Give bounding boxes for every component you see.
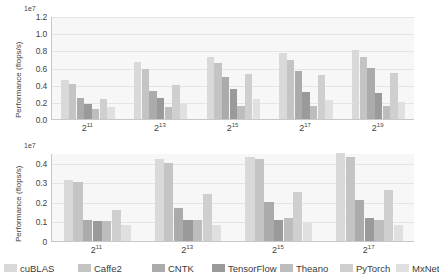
y-axis-tick-label: 1.0: [36, 29, 47, 39]
bar-group: [125, 17, 198, 119]
legend-label: Caffe2: [94, 263, 122, 274]
bar-caffe2: [73, 182, 82, 241]
y-axis-tick-label: 0.2: [36, 98, 47, 108]
bar-pytorch: [100, 99, 107, 119]
x-axis-tick-label: 217: [363, 244, 375, 255]
bar-cntk: [295, 71, 302, 119]
bar-tensorflow: [157, 98, 164, 119]
legend-item-cublas[interactable]: cuBLAS: [4, 263, 54, 274]
legend-label: PyTorch: [356, 263, 390, 274]
bar-mxnet: [212, 225, 221, 241]
bar-tensorflow: [365, 218, 374, 241]
bar-caffe2: [164, 163, 173, 241]
legend-swatch-icon: [340, 264, 353, 272]
bar-caffe2: [360, 57, 367, 119]
bar-cublas: [279, 53, 286, 119]
bar-mxnet: [303, 223, 312, 241]
bar-caffe2: [142, 69, 149, 119]
y-axis-label-bottom: Performance (flops/s): [14, 166, 23, 242]
bar-cublas: [134, 62, 141, 120]
legend-item-tensorflow[interactable]: TensorFlow: [212, 263, 277, 274]
bar-tensorflow: [302, 92, 309, 119]
bar-caffe2: [346, 157, 355, 241]
plot-area-top: [51, 17, 414, 120]
bar-tensorflow: [375, 93, 382, 119]
bar-cntk: [355, 200, 364, 241]
legend-label: cuBLAS: [20, 263, 54, 274]
bar-cntk: [149, 91, 156, 119]
y-axis-tick-label: 0.1: [36, 217, 47, 227]
bar-caffe2: [287, 60, 294, 119]
y-axis-tick-label: 0.6: [36, 64, 47, 74]
bar-pytorch: [112, 210, 121, 241]
y-axis-tick-label: 0.3: [36, 178, 47, 188]
bar-theano: [310, 106, 317, 119]
chart-panel-bottom: 1e7 Performance (flops/s) 00.10.20.30.42…: [0, 140, 425, 260]
x-axis-tick-label: 213: [154, 122, 166, 133]
y-axis-tick-label: 0.8: [36, 46, 47, 56]
bar-cntk: [77, 98, 84, 119]
bar-group: [52, 154, 143, 241]
bar-group: [342, 17, 415, 119]
x-axis-tick-label: 219: [372, 122, 384, 133]
bar-theano: [383, 106, 390, 119]
legend-label: MxNet: [412, 263, 439, 274]
legend-item-mxnet[interactable]: MxNet: [396, 263, 439, 274]
bar-tensorflow: [93, 221, 102, 241]
legend-swatch-icon: [4, 264, 17, 272]
legend-swatch-icon: [152, 264, 165, 272]
bar-mxnet: [253, 99, 260, 119]
bar-group: [143, 154, 234, 241]
chart-legend: cuBLASCaffe2CNTKTensorFlowTheanoPyTorchM…: [0, 258, 425, 278]
bar-pytorch: [203, 194, 212, 241]
x-axis-tick-label: 213: [181, 244, 193, 255]
legend-item-caffe2[interactable]: Caffe2: [78, 263, 122, 274]
x-axis-tick-label: 211: [82, 122, 93, 133]
bar-caffe2: [255, 159, 264, 241]
plot-area-bottom: [51, 154, 414, 242]
chart-panel-top: 1e7 Performance (flops/s) 0.00.20.40.60.…: [0, 0, 425, 140]
x-axis-tick-label: 217: [299, 122, 311, 133]
legend-item-pytorch[interactable]: PyTorch: [340, 263, 390, 274]
bar-tensorflow: [274, 220, 283, 242]
bar-cntk: [174, 208, 183, 241]
y-axis-offset-bottom: 1e7: [24, 142, 36, 149]
bar-theano: [374, 220, 383, 242]
bar-theano: [102, 221, 111, 241]
bar-theano: [237, 106, 244, 119]
bar-pytorch: [390, 73, 397, 119]
bar-group: [234, 154, 325, 241]
y-axis-tick-label: 0.4: [36, 159, 47, 169]
bar-mxnet: [107, 107, 114, 119]
bar-tensorflow: [84, 104, 91, 119]
bar-pytorch: [384, 190, 393, 241]
x-axis-tick-label: 215: [227, 122, 239, 133]
x-axis-tick-label: 215: [272, 244, 284, 255]
bar-mxnet: [398, 102, 405, 119]
bar-mxnet: [121, 225, 130, 241]
legend-item-theano[interactable]: Theano: [280, 263, 328, 274]
bar-theano: [92, 109, 99, 119]
bar-caffe2: [214, 63, 221, 119]
bar-cublas: [352, 50, 359, 119]
y-axis-tick-label: 0: [42, 237, 47, 247]
bar-cublas: [207, 57, 214, 119]
bar-tensorflow: [230, 89, 237, 119]
legend-item-cntk[interactable]: CNTK: [152, 263, 194, 274]
bar-cublas: [245, 157, 254, 241]
legend-swatch-icon: [396, 264, 409, 272]
bar-mxnet: [325, 100, 332, 119]
bar-pytorch: [245, 74, 252, 119]
bar-group: [324, 154, 415, 241]
y-axis-offset-top: 1e7: [24, 5, 36, 12]
bar-pytorch: [318, 75, 325, 119]
y-axis-label-top: Performance (flops/s): [14, 42, 23, 118]
bar-tensorflow: [183, 220, 192, 242]
bar-mxnet: [180, 104, 187, 119]
bar-pytorch: [293, 192, 302, 241]
y-axis-tick-label: 0.0: [36, 115, 47, 125]
y-axis-tick-label: 0.2: [36, 198, 47, 208]
bar-group: [270, 17, 343, 119]
bar-theano: [165, 107, 172, 119]
